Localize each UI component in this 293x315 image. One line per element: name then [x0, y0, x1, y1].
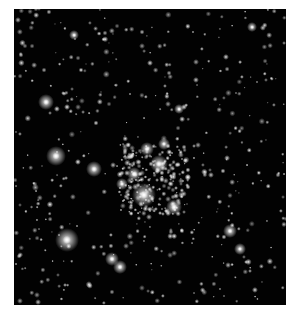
- star: [169, 178, 173, 182]
- star: [237, 79, 242, 84]
- star: [208, 172, 214, 178]
- star: [91, 166, 97, 172]
- star: [202, 152, 205, 155]
- star: [47, 211, 52, 216]
- star: [99, 245, 104, 250]
- star: [165, 92, 169, 96]
- star: [222, 294, 225, 297]
- star: [154, 298, 160, 304]
- star: [233, 126, 238, 131]
- star: [112, 52, 114, 54]
- star: [19, 245, 24, 250]
- star: [265, 220, 268, 223]
- star: [19, 9, 24, 14]
- star: [179, 117, 185, 123]
- star: [130, 252, 132, 254]
- star: [243, 269, 248, 274]
- star: [251, 182, 254, 185]
- star: [219, 287, 222, 290]
- star: [112, 95, 117, 100]
- star: [177, 163, 181, 167]
- star: [100, 91, 102, 93]
- star: [61, 176, 66, 181]
- star: [75, 56, 80, 61]
- star: [27, 9, 33, 15]
- star: [171, 250, 177, 256]
- star: [115, 58, 118, 61]
- star: [184, 103, 188, 107]
- star: [14, 230, 19, 235]
- star: [30, 205, 34, 209]
- star: [129, 152, 135, 158]
- star: [70, 260, 74, 264]
- star: [194, 299, 198, 303]
- star: [216, 107, 222, 113]
- star: [218, 27, 221, 30]
- star: [229, 131, 233, 135]
- star: [15, 263, 18, 266]
- star: [193, 156, 196, 159]
- star: [150, 290, 154, 294]
- star: [201, 216, 203, 218]
- star: [230, 263, 234, 267]
- star: [59, 184, 63, 188]
- star: [33, 12, 39, 18]
- star: [85, 63, 87, 65]
- star: [219, 69, 222, 72]
- star: [15, 17, 21, 23]
- star: [165, 12, 171, 18]
- star: [41, 268, 46, 273]
- star: [262, 44, 267, 49]
- star: [230, 212, 233, 215]
- star: [82, 154, 86, 158]
- star: [249, 76, 252, 79]
- star: [282, 222, 286, 227]
- star: [31, 79, 35, 83]
- star: [35, 236, 40, 241]
- star: [76, 224, 79, 227]
- star: [186, 178, 190, 182]
- star: [129, 27, 135, 33]
- star: [223, 54, 229, 60]
- star: [108, 42, 110, 44]
- star: [88, 112, 91, 115]
- star: [265, 139, 267, 141]
- star: [126, 80, 130, 84]
- star: [265, 120, 269, 124]
- star: [14, 75, 17, 79]
- star: [237, 91, 241, 95]
- star: [145, 147, 150, 152]
- star: [24, 267, 27, 270]
- star: [18, 60, 24, 66]
- star: [211, 256, 213, 258]
- star: [243, 86, 246, 89]
- star: [85, 210, 91, 216]
- star: [79, 98, 85, 104]
- star: [129, 93, 132, 96]
- star: [15, 131, 18, 134]
- star: [39, 279, 45, 285]
- star: [166, 149, 172, 155]
- star: [246, 228, 250, 232]
- star: [146, 35, 148, 37]
- star: [266, 9, 269, 11]
- star: [150, 263, 153, 266]
- star: [176, 125, 181, 130]
- star: [61, 91, 65, 95]
- star: [86, 283, 92, 289]
- star: [259, 140, 262, 143]
- star: [123, 194, 129, 200]
- star: [48, 111, 52, 115]
- star: [283, 216, 286, 221]
- star: [225, 67, 230, 72]
- star: [36, 201, 41, 206]
- star: [34, 9, 39, 12]
- star: [62, 288, 65, 291]
- star: [282, 161, 285, 164]
- star: [199, 282, 203, 286]
- star: [159, 108, 162, 111]
- star: [192, 292, 195, 295]
- star: [236, 181, 238, 183]
- star: [154, 207, 158, 211]
- star: [178, 223, 180, 225]
